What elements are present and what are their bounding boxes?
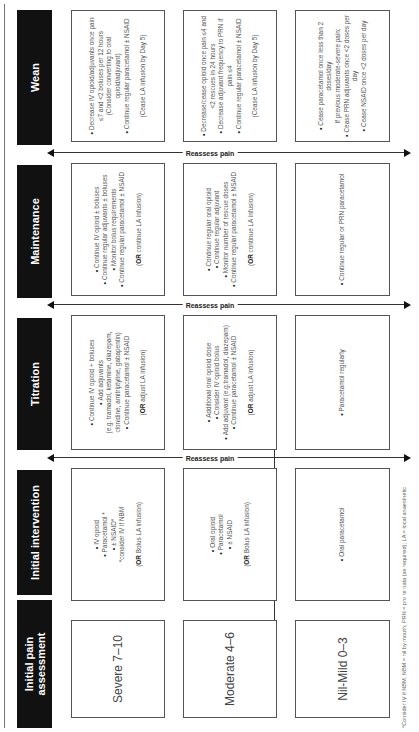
reassess-pain-label: Reassess pain (183, 150, 238, 157)
titration-nil-mild: Paracetamol regularly (295, 315, 390, 450)
column-header-initial-pain-assessment: Initial pain assessment (17, 600, 52, 728)
wean-moderate: Decrease/cease opioid once pain ≤4 and <… (183, 10, 277, 142)
maintenance-nil-mild: Continue regular or PRN paracetamol (295, 163, 390, 296)
intervention-nil-mild: Oral paracetamol (295, 468, 390, 601)
titration-moderate: Additional oral opioid dose Consider IV … (183, 315, 277, 450)
titration-severe: Continue IV opioid + boluses Add adjuvan… (71, 315, 165, 450)
arrowhead-down-icon (404, 454, 411, 462)
footnote: *Consider IV if NBM. NBM = nil by mouth;… (401, 487, 407, 728)
wean-severe: Decrease IV opioid/adjuvants once pain ≤… (71, 10, 165, 142)
arrowhead-up-icon (47, 149, 54, 157)
maintenance-severe: Continue IV opioid ± boluses Continue re… (71, 163, 165, 296)
reassess-pain-label: Reassess pain (183, 302, 238, 309)
arrowhead-down-icon (404, 301, 411, 309)
column-header-initial-intervention: Initial intervention (17, 470, 52, 595)
assessment-nil-mild: Nil-Mild 0–3 (295, 620, 390, 718)
arrowhead-up-icon (47, 454, 54, 462)
column-header-maintenance: Maintenance (17, 165, 52, 298)
intervention-moderate: Oral opioid Paracetamol ± NSAID (OR Bolu… (183, 468, 277, 601)
assessment-moderate: Moderate 4–6 (183, 620, 277, 718)
divider-line (4, 4, 5, 728)
column-header-titration: Titration (17, 318, 52, 450)
column-header-wean: Wean (17, 10, 52, 145)
pain-management-flowchart: Initial pain assessment Initial interven… (0, 0, 419, 732)
arrowhead-up-icon (47, 301, 54, 309)
arrowhead-down-icon (404, 149, 411, 157)
maintenance-moderate: Continue regular oral opioid Continue re… (183, 163, 277, 296)
assessment-severe: Severe 7–10 (71, 620, 165, 718)
intervention-severe: IV opioid Paracetamol * ± NSAID* *consid… (71, 468, 165, 601)
reassess-pain-label: Reassess pain (183, 455, 238, 462)
wean-nil-mild: Cease paracetamol once less than 2 doses… (295, 10, 390, 142)
